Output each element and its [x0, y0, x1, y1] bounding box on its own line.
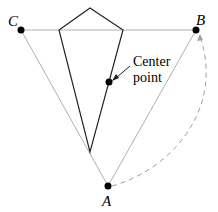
center-point-dot [106, 79, 113, 86]
label-a: A [101, 193, 112, 209]
point-c-dot [18, 27, 25, 34]
label-center-line1: Center [133, 54, 171, 69]
arc-arrowhead-icon [197, 34, 203, 41]
center-arrow [116, 66, 130, 78]
point-a-dot [105, 183, 112, 190]
label-center-line2: point [133, 70, 162, 85]
label-b: B [196, 12, 205, 28]
diagram-canvas: C B A Center point [0, 0, 218, 212]
label-c: C [8, 13, 19, 29]
center-arrowhead-icon [112, 74, 119, 81]
